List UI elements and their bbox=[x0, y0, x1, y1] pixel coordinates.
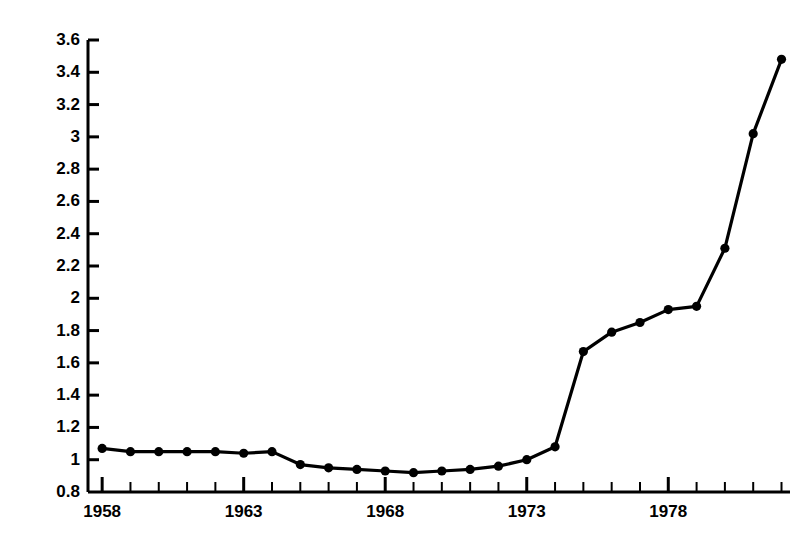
data-point-marker bbox=[522, 455, 531, 464]
data-point-marker bbox=[324, 463, 333, 472]
data-point-marker bbox=[126, 447, 135, 456]
chart-background bbox=[0, 0, 806, 545]
data-point-marker bbox=[296, 460, 305, 469]
y-axis-tick-label: 1.8 bbox=[56, 322, 80, 339]
y-axis-tick-label: 1.2 bbox=[56, 418, 80, 435]
data-point-marker bbox=[352, 465, 361, 474]
data-point-marker bbox=[182, 447, 191, 456]
line-chart-plot bbox=[0, 0, 806, 545]
data-point-marker bbox=[239, 449, 248, 458]
data-point-marker bbox=[494, 462, 503, 471]
y-axis-tick-label: 1 bbox=[71, 451, 80, 468]
data-point-marker bbox=[692, 302, 701, 311]
data-point-marker bbox=[466, 465, 475, 474]
y-axis-tick-label: 3 bbox=[71, 128, 80, 145]
data-point-marker bbox=[777, 55, 786, 64]
data-point-marker bbox=[635, 318, 644, 327]
data-point-marker bbox=[409, 468, 418, 477]
y-axis-tick-label: 2.6 bbox=[56, 192, 80, 209]
x-axis-tick-label: 1958 bbox=[62, 503, 142, 520]
data-point-marker bbox=[211, 447, 220, 456]
y-axis-tick-label: 1.6 bbox=[56, 354, 80, 371]
x-axis-tick-label: 1978 bbox=[628, 503, 708, 520]
x-axis-tick-label: 1963 bbox=[204, 503, 284, 520]
chart-container: (1972 = 1.0) 0.811.21.41.61.822.22.42.62… bbox=[0, 0, 806, 545]
y-axis-tick-label: 2 bbox=[71, 289, 80, 306]
y-axis-tick-label: 3.6 bbox=[56, 31, 80, 48]
data-point-marker bbox=[437, 466, 446, 475]
y-axis-tick-label: 3.2 bbox=[56, 96, 80, 113]
data-point-marker bbox=[98, 444, 107, 453]
data-point-marker bbox=[154, 447, 163, 456]
data-point-marker bbox=[720, 244, 729, 253]
data-point-marker bbox=[381, 466, 390, 475]
y-axis-tick-label: 1.4 bbox=[56, 386, 80, 403]
y-axis-tick-label: 3.4 bbox=[56, 63, 80, 80]
data-point-marker bbox=[579, 347, 588, 356]
data-point-marker bbox=[267, 447, 276, 456]
y-axis-tick-label: 2.4 bbox=[56, 225, 80, 242]
data-point-marker bbox=[664, 305, 673, 314]
x-axis-tick-label: 1968 bbox=[345, 503, 425, 520]
y-axis-tick-label: 2.8 bbox=[56, 160, 80, 177]
y-axis-tick-label: 0.8 bbox=[56, 483, 80, 500]
data-point-marker bbox=[550, 442, 559, 451]
y-axis-tick-label: 2.2 bbox=[56, 257, 80, 274]
data-point-marker bbox=[607, 328, 616, 337]
x-axis-tick-label: 1973 bbox=[487, 503, 567, 520]
data-point-marker bbox=[749, 129, 758, 138]
